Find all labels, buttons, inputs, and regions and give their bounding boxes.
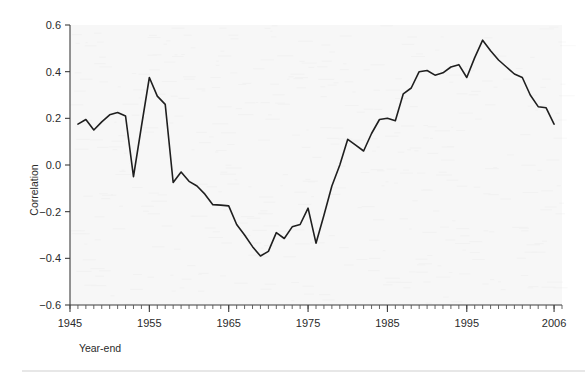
y-tick-label: 0.4	[46, 66, 61, 78]
x-tick-label: 1955	[137, 317, 161, 329]
x-tick-label: 1965	[216, 317, 240, 329]
figure-container: −0.6−0.4−0.20.00.20.40.6 194519551965197…	[0, 0, 585, 378]
y-axis-title: Correlation	[28, 164, 40, 216]
y-tick-label: −0.4	[39, 252, 61, 264]
x-tick-label: 1985	[375, 317, 399, 329]
y-tick-label: 0.6	[46, 19, 61, 31]
x-tick-label: 2006	[542, 317, 566, 329]
x-tick-label: 1945	[58, 317, 82, 329]
correlation-line-chart: −0.6−0.4−0.20.00.20.40.6 194519551965197…	[0, 0, 585, 378]
y-tick-label: −0.2	[39, 206, 61, 218]
x-tick-label: 1995	[455, 317, 479, 329]
x-tick-label: 1975	[296, 317, 320, 329]
y-tick-label: −0.6	[39, 299, 61, 311]
y-tick-label: 0.0	[46, 159, 61, 171]
y-tick-label: 0.2	[46, 112, 61, 124]
plot-area-background	[70, 25, 562, 305]
x-axis-title: Year-end	[79, 342, 121, 354]
